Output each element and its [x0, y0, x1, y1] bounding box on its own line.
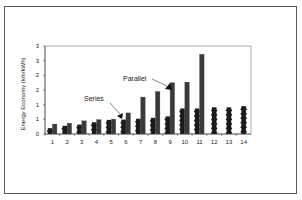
bar-marker [194, 120, 196, 122]
y-tick-label: 1 [36, 116, 40, 122]
y-tick-label: 2 [36, 72, 40, 78]
bar-series [62, 126, 67, 134]
bar-series [241, 106, 246, 134]
bar-marker [179, 115, 181, 117]
bar-parallel [126, 113, 131, 134]
x-tick-label: 9 [168, 139, 172, 145]
x-tick-label: 4 [95, 139, 99, 145]
bar-marker [226, 114, 228, 116]
x-tick-label: 7 [139, 139, 143, 145]
bar-marker [76, 131, 78, 133]
bar-marker [216, 114, 218, 116]
bar-marker [165, 123, 167, 125]
bar-marker [91, 129, 93, 131]
bar-series [227, 107, 232, 134]
bar-marker [211, 127, 213, 129]
bar-marker [216, 132, 218, 134]
x-tick-label: 11 [196, 139, 203, 145]
bar-marker [245, 126, 247, 128]
bar-marker [245, 122, 247, 124]
annotation-series-arrow-line [110, 103, 120, 114]
bar-marker [179, 124, 181, 126]
bar-marker [230, 118, 232, 120]
bar-marker [150, 124, 152, 126]
bar-marker [226, 109, 228, 111]
bar-parallel [170, 83, 175, 134]
bar-marker [165, 119, 167, 121]
bar-marker [216, 127, 218, 129]
bar-marker [226, 118, 228, 120]
x-tick-label: 3 [80, 139, 84, 145]
bar-marker [150, 120, 152, 122]
bar-marker [150, 129, 152, 131]
bar-parallel [185, 82, 190, 134]
bar-marker [106, 131, 108, 133]
bar-marker [245, 113, 247, 115]
y-tick-label: 2 [36, 87, 40, 93]
bar-marker [120, 122, 122, 124]
x-tick-label: 13 [226, 139, 233, 145]
bar-marker [230, 109, 232, 111]
bar-marker [135, 130, 137, 132]
bar-marker [165, 132, 167, 134]
bar-marker [226, 132, 228, 134]
annotation-parallel-label: Parallel [123, 75, 147, 82]
bar-marker [120, 126, 122, 128]
bar-parallel [200, 54, 205, 134]
bar-marker [47, 130, 49, 132]
x-tick-label: 6 [124, 139, 128, 145]
y-axis-title: Energy Economy (km/kWh) [20, 57, 26, 130]
bar-marker [179, 129, 181, 131]
bar-marker [194, 111, 196, 113]
bar-series [92, 122, 97, 134]
bar-marker [211, 123, 213, 125]
x-tick-label: 5 [110, 139, 114, 145]
bar-marker [106, 122, 108, 124]
bar-marker [211, 109, 213, 111]
bar-marker [165, 127, 167, 129]
y-tick-label: 3 [36, 43, 40, 49]
bar-series [195, 108, 200, 134]
bar-parallel [141, 97, 146, 134]
plot-area-frame [45, 46, 251, 134]
bar-marker [135, 125, 137, 127]
bar-marker [211, 114, 213, 116]
bar-marker [135, 121, 137, 123]
bar-marker [230, 127, 232, 129]
bar-marker [120, 131, 122, 133]
bar-marker [211, 132, 213, 134]
x-tick-label: 10 [181, 139, 188, 145]
bar-marker [245, 131, 247, 133]
bar-marker [62, 128, 64, 130]
bar-marker [240, 131, 242, 133]
y-tick-label: 1 [36, 102, 40, 108]
x-tick-label: 8 [154, 139, 158, 145]
bar-parallel [111, 119, 116, 134]
bar-series [212, 107, 217, 134]
bar-marker [179, 120, 181, 122]
x-tick-label: 2 [65, 139, 69, 145]
bar-marker [240, 122, 242, 124]
y-tick-label: 0 [36, 131, 40, 137]
x-tick-label: 1 [51, 139, 55, 145]
bar-marker [240, 126, 242, 128]
bar-marker [230, 123, 232, 125]
bar-marker [240, 108, 242, 110]
x-tick-label: 12 [211, 139, 218, 145]
bar-marker [216, 118, 218, 120]
bar-marker [226, 123, 228, 125]
bar-marker [106, 127, 108, 129]
bar-marker [245, 108, 247, 110]
annotation-series-label: Series [84, 95, 104, 102]
bar-marker [216, 109, 218, 111]
bar-parallel [82, 121, 87, 134]
bar-marker [194, 115, 196, 117]
x-tick-label: 14 [240, 139, 247, 145]
bar-marker [230, 132, 232, 134]
bar-marker [91, 124, 93, 126]
bar-parallel [155, 91, 160, 134]
bar-marker [76, 127, 78, 129]
y-tick-label: 3 [36, 58, 40, 64]
bar-marker [226, 127, 228, 129]
bar-series [180, 108, 185, 134]
